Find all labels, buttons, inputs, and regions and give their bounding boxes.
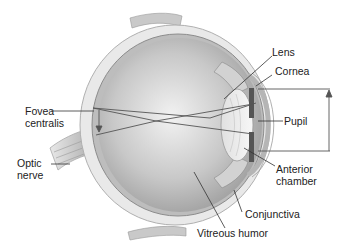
iris-top xyxy=(249,88,254,118)
label-optic-line1: Optic xyxy=(17,157,42,169)
label-lens: Lens xyxy=(272,46,295,58)
iris-bottom xyxy=(249,132,254,162)
label-cornea: Cornea xyxy=(275,65,309,77)
label-fovea-line1: Fovea xyxy=(25,105,54,117)
label-fovea-line2: centralis xyxy=(25,117,64,129)
label-anterior-line2: chamber xyxy=(276,175,317,187)
label-pupil: Pupil xyxy=(284,115,307,127)
label-conjunctiva: Conjunctiva xyxy=(245,208,300,220)
label-vitreous-humor: Vitreous humor xyxy=(197,227,268,239)
muscle-bottom xyxy=(128,226,186,240)
label-anterior-line1: Anterior xyxy=(276,163,313,175)
label-optic-line2: nerve xyxy=(17,169,43,181)
